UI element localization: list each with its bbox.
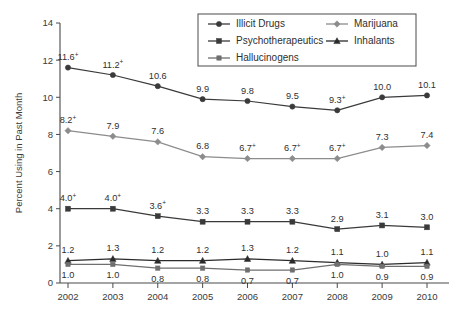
data-label: 6.8	[196, 141, 209, 151]
square-marker	[335, 227, 340, 232]
data-label: 0.8	[151, 274, 164, 284]
diamond-marker	[65, 128, 71, 134]
data-point-square-small	[156, 266, 160, 270]
data-point-circle	[65, 65, 70, 70]
data-point-square-small	[335, 262, 339, 266]
significance-marker: +	[72, 192, 76, 199]
data-point-diamond	[289, 155, 295, 161]
significance-marker: +	[162, 199, 166, 206]
x-tick-label: 2003	[102, 291, 123, 302]
x-tick-label: 2004	[147, 291, 168, 302]
data-label: 10.0	[373, 82, 391, 92]
x-tick-label: 2008	[327, 291, 348, 302]
circle-marker	[200, 97, 205, 102]
square-marker	[200, 219, 205, 224]
circle-marker	[290, 104, 295, 109]
data-label: 1.3	[106, 243, 119, 253]
x-tick-label: 2007	[282, 291, 303, 302]
data-label: 6.7+	[284, 142, 301, 153]
diamond-marker	[334, 155, 340, 161]
significance-marker: +	[252, 142, 256, 149]
diamond-marker	[199, 154, 205, 160]
data-point-diamond	[379, 144, 385, 150]
significance-marker: +	[120, 58, 124, 65]
square-marker	[245, 219, 250, 224]
data-point-diamond	[199, 154, 205, 160]
data-label: 9.8	[241, 86, 254, 96]
data-point-circle	[335, 108, 340, 113]
data-label: 0.7	[286, 276, 299, 286]
data-label: 10.1	[418, 80, 436, 90]
x-tick-label: 2006	[237, 291, 258, 302]
data-label: 0.9	[376, 272, 389, 282]
x-tick-label: 2005	[192, 291, 213, 302]
data-point-square	[290, 219, 295, 224]
diamond-marker	[379, 144, 385, 150]
data-point-square-small	[111, 262, 115, 266]
significance-marker: +	[342, 94, 346, 101]
significance-marker: +	[297, 142, 301, 149]
data-label: 1.0	[106, 270, 119, 280]
data-point-square	[155, 214, 160, 219]
data-label: 1.2	[196, 245, 209, 255]
data-label: 2.9	[331, 214, 344, 224]
data-point-square	[200, 219, 205, 224]
data-point-square-small	[200, 266, 204, 270]
circle-marker	[65, 65, 70, 70]
data-label: 0.7	[241, 276, 254, 286]
data-point-circle	[380, 95, 385, 100]
line-chart: 02468101214Percent Using in Past Month20…	[0, 0, 460, 323]
circle-marker	[216, 21, 221, 26]
data-label: 1.2	[286, 245, 299, 255]
data-point-circle	[290, 104, 295, 109]
diamond-marker	[424, 142, 430, 148]
square-small-marker	[245, 268, 249, 272]
significance-marker: +	[117, 192, 121, 199]
data-label: 3.0	[421, 212, 434, 222]
square-small-marker	[425, 264, 429, 268]
data-point-circle	[245, 98, 250, 103]
significance-marker: +	[72, 114, 76, 121]
square-marker	[380, 223, 385, 228]
square-small-marker	[66, 262, 70, 266]
data-label: 3.6+	[149, 199, 166, 210]
data-point-square	[66, 206, 71, 211]
square-marker	[290, 219, 295, 224]
data-label: 1.1	[331, 247, 344, 257]
data-label: 7.3	[376, 132, 389, 142]
data-point-square	[335, 227, 340, 232]
data-label: 11.6+	[58, 51, 79, 62]
data-label: 1.1	[421, 247, 434, 257]
diamond-marker	[110, 133, 116, 139]
data-label: 9.5	[286, 91, 299, 101]
significance-marker: +	[75, 51, 79, 58]
y-axis-title: Percent Using in Past Month	[13, 93, 24, 213]
data-label: 9.3+	[329, 94, 346, 105]
data-label: 3.3	[196, 206, 209, 216]
legend-label: Hallucinogens	[236, 52, 299, 63]
square-marker	[425, 225, 430, 230]
data-label: 1.0	[331, 270, 344, 280]
y-tick-label: 10	[42, 92, 53, 103]
circle-marker	[424, 93, 429, 98]
data-label: 1.0	[62, 270, 75, 280]
data-label: 7.4	[421, 130, 434, 140]
data-point-circle	[155, 84, 160, 89]
data-label: 11.2+	[102, 58, 123, 69]
data-label: 0.9	[421, 272, 434, 282]
data-point-circle	[200, 97, 205, 102]
data-point-circle	[424, 93, 429, 98]
data-label: 0.8	[196, 274, 209, 284]
data-label: 10.6	[149, 71, 167, 81]
data-point-diamond	[244, 155, 250, 161]
square-small-marker	[217, 56, 221, 60]
data-label: 3.1	[376, 210, 389, 220]
data-label: 6.7+	[239, 142, 256, 153]
data-label: 3.3	[241, 206, 254, 216]
data-point-diamond	[65, 128, 71, 134]
data-label: 1.3	[241, 243, 254, 253]
circle-marker	[380, 95, 385, 100]
data-point-square	[245, 219, 250, 224]
data-point-square	[110, 206, 115, 211]
legend-label: Marijuana	[354, 18, 398, 29]
